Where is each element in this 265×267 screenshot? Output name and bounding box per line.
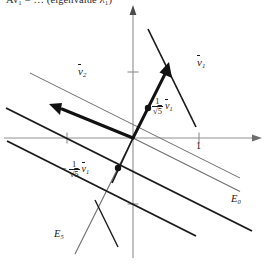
steep-line-left	[95, 200, 118, 247]
neg-scaled-v1-letter: v	[82, 163, 86, 174]
point-scaled-v1	[145, 105, 151, 111]
neg-scaled-v1-vector-glyph: v	[82, 164, 86, 174]
neg-radicand: 5	[74, 169, 78, 179]
E5-subscript: 5	[60, 233, 63, 240]
x-axis-arrowhead	[252, 135, 262, 142]
v2-vector-glyph: v	[78, 66, 83, 77]
v2-subscript: 2	[83, 71, 86, 78]
neg-fraction-one-over-root-five: 1 √5	[69, 160, 80, 178]
label-E5: E5	[54, 229, 64, 240]
neg-scaled-v1-subscript: 1	[86, 168, 89, 175]
axes-group	[4, 5, 262, 258]
top-clipped-equation: Av₁ = … (eigenvalue λ₁)	[6, 0, 112, 6]
line-E0	[133, 138, 240, 192]
v1-letter: v	[197, 56, 202, 68]
fraction-denominator: √5	[152, 106, 163, 116]
E0-subscript: 0	[237, 198, 240, 205]
vector-v2-shaft	[62, 109, 133, 138]
radicand: 5	[158, 106, 162, 116]
parallel-lines-E0-family	[6, 73, 252, 236]
steep-line-through-origin-lower	[112, 138, 133, 183]
label-scaled-v1: 1 √5 v1	[152, 97, 172, 115]
v2-letter: v	[78, 65, 83, 77]
label-v2: v2	[78, 66, 86, 79]
vector-v2-arrowhead	[49, 103, 62, 115]
scaled-v1-vector-glyph: v	[165, 101, 169, 111]
scaled-v1-overbar	[165, 99, 168, 100]
scaled-v1-subscript: 1	[169, 105, 172, 112]
fraction-one-over-root-five: 1 √5	[152, 97, 163, 115]
neg-scaled-v1-overbar	[82, 162, 85, 163]
label-v1: v1	[197, 57, 205, 70]
v1-vector-glyph: v	[197, 57, 202, 68]
v1-overbar	[197, 55, 200, 56]
point-negative-scaled-v1	[115, 165, 121, 171]
parallel-line-middle-bold	[6, 108, 252, 231]
scaled-v1-letter: v	[165, 100, 169, 111]
v1-subscript: 1	[202, 62, 205, 69]
minus-sign: −	[61, 163, 67, 174]
label-E0: E0	[231, 194, 241, 205]
y-axis-arrowhead	[130, 5, 137, 15]
v2-overbar	[78, 64, 81, 65]
neg-fraction-denominator: √5	[69, 169, 80, 179]
fraction-numerator: 1	[152, 97, 163, 106]
x-axis-tick-label-one: 1	[196, 141, 201, 151]
vector-v2	[49, 103, 133, 138]
neg-fraction-numerator: 1	[69, 160, 80, 169]
eigenvector-diagram	[0, 0, 265, 267]
label-negative-scaled-v1: − 1 √5 v1	[61, 160, 89, 178]
